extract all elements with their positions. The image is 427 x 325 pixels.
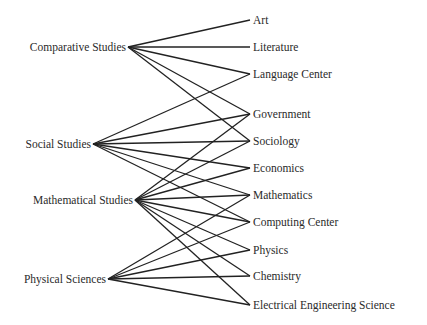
right-node-labels: ArtLiteratureLanguage CenterGovernmentSo… xyxy=(253,14,395,312)
right-node-government: Government xyxy=(253,108,311,120)
edge-physical-ees xyxy=(108,279,250,305)
edge-comparative-art xyxy=(128,20,250,47)
division-department-diagram: Comparative StudiesSocial StudiesMathema… xyxy=(0,0,427,325)
left-node-comparative: Comparative Studies xyxy=(30,41,127,54)
right-node-economics: Economics xyxy=(253,162,305,174)
right-node-art: Art xyxy=(253,14,269,26)
right-node-chemistry: Chemistry xyxy=(253,270,301,283)
right-node-computing: Computing Center xyxy=(253,216,338,229)
left-node-mathematical: Mathematical Studies xyxy=(33,194,133,206)
right-node-sociology: Sociology xyxy=(253,135,300,148)
left-node-labels: Comparative StudiesSocial StudiesMathema… xyxy=(24,41,134,286)
edge-social-government xyxy=(93,114,250,144)
edge-social-language xyxy=(93,74,250,144)
right-node-mathematics: Mathematics xyxy=(253,189,313,201)
edges xyxy=(93,20,250,305)
edge-physical-physics xyxy=(108,250,250,279)
edge-comparative-government xyxy=(128,47,250,114)
edge-physical-chemistry xyxy=(108,276,250,279)
right-node-literature: Literature xyxy=(253,41,298,53)
edge-mathematical-physics xyxy=(135,200,250,250)
edge-physical-mathematics xyxy=(108,195,250,279)
edge-physical-computing xyxy=(108,222,250,279)
right-node-physics: Physics xyxy=(253,244,289,257)
right-node-ees: Electrical Engineering Science xyxy=(253,299,395,312)
left-node-physical: Physical Sciences xyxy=(24,273,107,286)
edge-social-sociology xyxy=(93,141,250,144)
edge-mathematical-government xyxy=(135,114,250,200)
right-node-language: Language Center xyxy=(253,68,332,81)
left-node-social: Social Studies xyxy=(26,138,92,150)
edge-social-mathematics xyxy=(93,144,250,195)
edge-mathematical-sociology xyxy=(135,141,250,200)
